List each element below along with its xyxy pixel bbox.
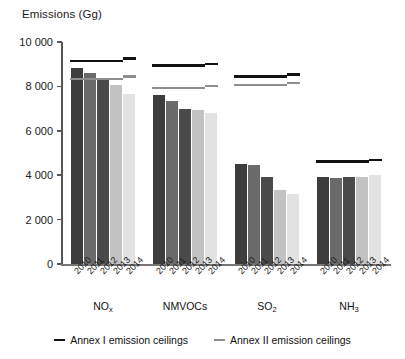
- annex-ii-ceiling-line: [70, 78, 123, 81]
- bar: [84, 73, 97, 264]
- plot-area: [62, 42, 390, 264]
- bar: [110, 85, 123, 264]
- y-axis-tick-label: 8 000: [25, 80, 53, 92]
- y-axis-labels: 10 0008 0006 0004 0002 0000: [0, 0, 61, 266]
- annex-i-ceiling-line: [70, 60, 123, 63]
- bar: [343, 177, 356, 264]
- y-axis-tick-label: 0: [47, 258, 53, 270]
- bar: [166, 101, 179, 264]
- group-label: SO2: [257, 300, 276, 312]
- legend-item[interactable]: Annex I emission ceilings: [54, 334, 188, 346]
- y-axis-tick-label: 6 000: [25, 125, 53, 137]
- group-label: NOx: [93, 300, 113, 312]
- annex-i-ceiling-line: [316, 160, 369, 163]
- bar: [356, 177, 369, 264]
- bar: [330, 178, 343, 264]
- legend-label: Annex II emission ceilings: [230, 334, 351, 346]
- bar: [179, 109, 192, 264]
- annex-ii-ceiling-line: [152, 87, 205, 90]
- annex-i-ceiling-line: [152, 64, 205, 67]
- bar: [97, 80, 110, 264]
- emissions-chart: Emissions (Gg) 10 0008 0006 0004 0002 00…: [0, 0, 405, 359]
- bar: [235, 164, 248, 264]
- group-label: NMVOCs: [163, 300, 207, 312]
- bar: [274, 190, 287, 264]
- annex-ii-ceiling-line: [205, 85, 218, 88]
- annex-i-ceiling-line: [369, 159, 382, 162]
- bar: [123, 94, 136, 264]
- bar: [317, 177, 330, 264]
- annex-ii-ceiling-line: [234, 84, 287, 87]
- y-axis-tick-label: 10 000: [19, 36, 53, 48]
- y-axis-tick-label: 2 000: [25, 214, 53, 226]
- bar: [192, 110, 205, 264]
- annex-ii-ceiling-line: [287, 82, 300, 85]
- legend-swatch-icon: [54, 339, 65, 342]
- annex-i-ceiling-line: [234, 75, 287, 78]
- legend-label: Annex I emission ceilings: [70, 334, 188, 346]
- y-axis-tick-label: 4 000: [25, 169, 53, 181]
- bar: [71, 68, 84, 264]
- group-label: NH3: [339, 300, 358, 312]
- legend-swatch-icon: [214, 339, 225, 342]
- bar-group: [153, 42, 218, 264]
- chart-legend: Annex I emission ceilingsAnnex II emissi…: [0, 330, 405, 350]
- bar: [261, 177, 274, 264]
- bar-group: [317, 42, 382, 264]
- annex-ii-ceiling-line: [123, 75, 136, 78]
- annex-i-ceiling-line: [287, 73, 300, 76]
- bar: [205, 113, 218, 264]
- bar: [369, 175, 382, 264]
- annex-i-ceiling-line: [205, 63, 218, 66]
- annex-i-ceiling-line: [123, 57, 136, 60]
- group-labels: NOxNMVOCsSO2NH3: [62, 300, 390, 320]
- legend-item[interactable]: Annex II emission ceilings: [214, 334, 351, 346]
- bar: [248, 165, 261, 264]
- bar: [153, 95, 166, 264]
- x-axis-labels: 2010201120122013201420102011201220132014…: [62, 266, 390, 300]
